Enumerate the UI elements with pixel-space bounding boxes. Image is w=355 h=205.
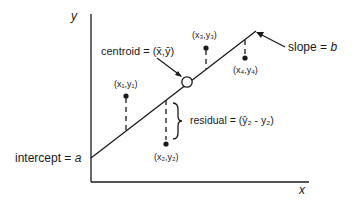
point-label-4: (x₄,y₄) bbox=[233, 65, 258, 75]
y-axis-label: y bbox=[70, 9, 78, 23]
centroid-marker bbox=[182, 77, 192, 87]
data-point-1 bbox=[123, 93, 128, 98]
residual-brace bbox=[173, 103, 182, 139]
intercept-label: intercept = a bbox=[15, 151, 82, 165]
x-axis-label-visible: x bbox=[298, 183, 306, 197]
point-label-1: (x₁,y₁) bbox=[114, 79, 138, 89]
data-point-2 bbox=[163, 141, 168, 146]
centroid-label: centroid = (x̄,ȳ) bbox=[101, 45, 174, 57]
point-label-3: (x₃,y₃) bbox=[192, 30, 217, 40]
regression-diagram: y x x (x₁,y₁) (x₂,y₂) (x₃,y₃) (x₄,y₄) ce… bbox=[0, 0, 355, 205]
residual-label: residual = (ŷ₂ - y₂) bbox=[190, 114, 274, 126]
data-point-4 bbox=[242, 55, 247, 60]
data-point-3 bbox=[203, 45, 208, 50]
point-label-2: (x₂,y₂) bbox=[154, 152, 178, 162]
slope-label: slope = b bbox=[288, 40, 337, 54]
